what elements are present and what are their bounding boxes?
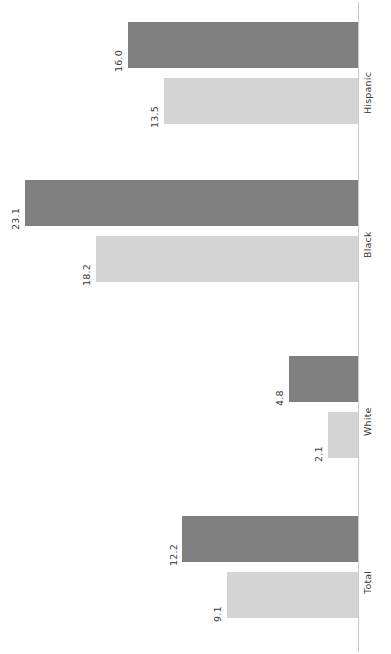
category-label-hispanic: Hispanic xyxy=(362,72,373,114)
bar-value-label: 18.2 xyxy=(81,264,92,286)
plot-area: 16.0 13.5 Hispanic 23.1 18.2 Black 4.8 2… xyxy=(0,0,391,654)
bar-group-black: 23.1 18.2 Black xyxy=(0,172,391,296)
bar-white-series-2[interactable] xyxy=(328,412,358,458)
bar-total-series-2[interactable] xyxy=(227,572,358,618)
category-label-black: Black xyxy=(362,231,373,258)
bar-white-series-1[interactable] xyxy=(289,356,358,402)
bar-group-white: 4.8 2.1 White xyxy=(0,348,391,472)
bar-black-series-2[interactable] xyxy=(96,236,358,282)
bar-chart: 16.0 13.5 Hispanic 23.1 18.2 Black 4.8 2… xyxy=(0,0,391,654)
bar-value-label: 2.1 xyxy=(313,446,324,462)
bar-value-label: 16.0 xyxy=(113,50,124,72)
category-label-white: White xyxy=(362,407,373,436)
category-label-total: Total xyxy=(362,571,373,594)
bar-value-label: 23.1 xyxy=(10,208,21,230)
bar-black-series-1[interactable] xyxy=(25,180,358,226)
bar-total-series-1[interactable] xyxy=(182,516,358,562)
bar-hispanic-series-2[interactable] xyxy=(164,78,358,124)
bar-value-label: 9.1 xyxy=(212,606,223,622)
bar-hispanic-series-1[interactable] xyxy=(128,22,358,68)
bar-value-label: 13.5 xyxy=(149,106,160,128)
bar-value-label: 12.2 xyxy=(168,544,179,566)
bar-value-label: 4.8 xyxy=(274,390,285,406)
bar-group-total: 12.2 9.1 Total xyxy=(0,508,391,632)
bar-group-hispanic: 16.0 13.5 Hispanic xyxy=(0,14,391,138)
